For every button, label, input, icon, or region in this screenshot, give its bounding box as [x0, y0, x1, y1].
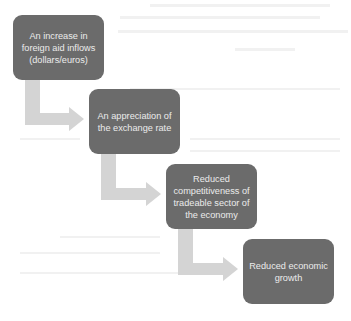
step-box-3: Reduced competitiveness of tradeable sec…	[166, 164, 257, 229]
step-box-1: An increase in foreign aid inflows (doll…	[13, 15, 104, 80]
step-label: An increase in foreign aid inflows (doll…	[16, 30, 101, 66]
step-label: Reduced economic growth	[246, 260, 331, 284]
bent-arrow-icon	[101, 154, 161, 206]
step-label: Reduced competitiveness of tradeable sec…	[169, 173, 254, 221]
bent-arrow-icon	[25, 80, 84, 131]
step-label: An appreciation of the exchange rate	[92, 110, 177, 134]
step-box-4: Reduced economic growth	[243, 239, 334, 304]
bent-arrow-icon	[178, 229, 238, 281]
step-box-2: An appreciation of the exchange rate	[89, 89, 180, 154]
